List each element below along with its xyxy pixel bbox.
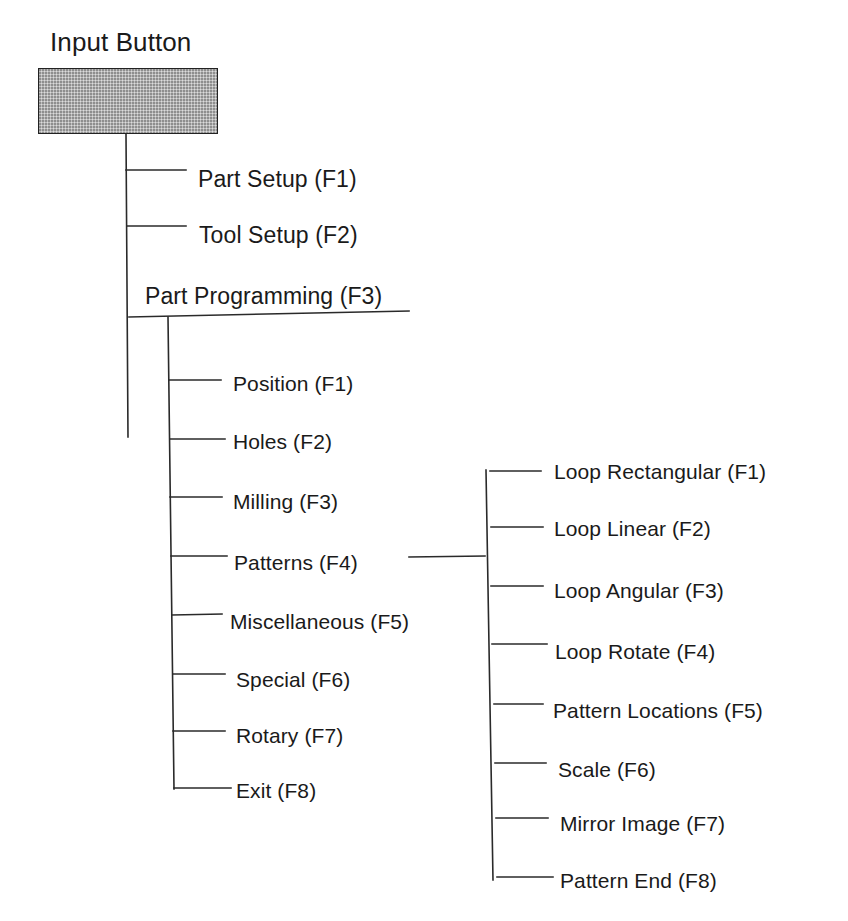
- menu-item-part-programming[interactable]: Part Programming (F3): [145, 285, 382, 308]
- menu-item-exit[interactable]: Exit (F8): [236, 780, 316, 801]
- menu-item-miscellaneous[interactable]: Miscellaneous (F5): [230, 611, 409, 632]
- menu-item-position[interactable]: Position (F1): [233, 373, 353, 394]
- menu-item-tool-setup[interactable]: Tool Setup (F2): [199, 224, 358, 247]
- menu-item-holes[interactable]: Holes (F2): [233, 431, 332, 452]
- menu-item-pattern-locations[interactable]: Pattern Locations (F5): [553, 700, 763, 721]
- menu-item-loop-rectangular[interactable]: Loop Rectangular (F1): [554, 461, 766, 482]
- menu-item-pattern-end[interactable]: Pattern End (F8): [560, 870, 717, 891]
- menu-item-mirror-image[interactable]: Mirror Image (F7): [560, 813, 725, 834]
- menu-tree-diagram: Input Button Part Setup (F1) Tool Setup …: [0, 0, 848, 921]
- menu-item-part-setup[interactable]: Part Setup (F1): [198, 168, 357, 191]
- menu-item-rotary[interactable]: Rotary (F7): [236, 725, 343, 746]
- input-button[interactable]: [38, 68, 218, 134]
- menu-item-patterns[interactable]: Patterns (F4): [234, 552, 358, 573]
- menu-item-milling[interactable]: Milling (F3): [233, 491, 338, 512]
- menu-item-scale[interactable]: Scale (F6): [558, 759, 656, 780]
- menu-item-loop-rotate[interactable]: Loop Rotate (F4): [555, 641, 715, 662]
- diagram-title: Input Button: [50, 29, 191, 55]
- menu-item-special[interactable]: Special (F6): [236, 669, 350, 690]
- menu-item-loop-linear[interactable]: Loop Linear (F2): [554, 518, 711, 539]
- menu-item-loop-angular[interactable]: Loop Angular (F3): [554, 580, 724, 601]
